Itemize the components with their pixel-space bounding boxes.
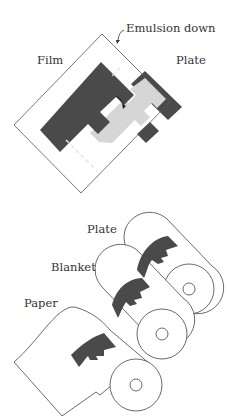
plate-cylinder-hub <box>183 283 195 295</box>
impression-cylinder-hub <box>130 379 142 391</box>
offset-printing-figure: Emulsion down Film Plate Plate Blanket P… <box>0 0 230 416</box>
press-cylinders-diagram <box>0 0 230 416</box>
blanket-cylinder-hub <box>156 328 168 340</box>
paper-label: Paper <box>24 298 58 310</box>
plate-label-bottom: Plate <box>87 224 117 236</box>
blanket-label: Blanket <box>51 262 96 274</box>
